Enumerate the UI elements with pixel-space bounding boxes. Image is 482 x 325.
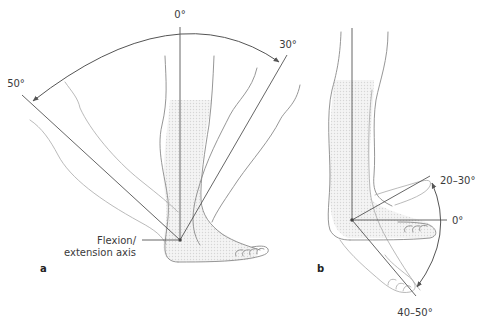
panel-a: 0° 30° 50° Flexion/ extension axis a [7, 9, 300, 274]
leg-plantarflexed-back [30, 120, 166, 244]
axis-point-b [350, 218, 354, 222]
plantarflexion-line [22, 95, 180, 240]
leg-dorsiflexed-front [212, 85, 300, 222]
leg-b-front [374, 32, 392, 206]
panel-b: 20–30° 0° 40–50° b [317, 28, 475, 318]
panel-letter-a: a [40, 263, 47, 274]
range-arc-a [33, 34, 279, 101]
label-0-degree-b: 0° [452, 215, 463, 226]
label-20-30-degree: 20–30° [440, 175, 475, 186]
leg-b-shade [329, 80, 435, 238]
axis-point-a [178, 238, 182, 242]
label-0-degree-a: 0° [174, 9, 185, 20]
foot-b-plantarflexed [340, 240, 415, 293]
label-flexion-axis-line1: Flexion/ [97, 235, 137, 246]
leg-plantarflexed-front [65, 82, 178, 212]
leg-b-inner [369, 90, 420, 290]
label-50-degree: 50° [7, 78, 25, 89]
label-40-50-degree: 40–50° [397, 307, 432, 318]
foot-b-plantar-toes [388, 279, 411, 291]
label-30-degree: 30° [279, 39, 297, 50]
range-of-motion-diagram: 0° 30° 50° Flexion/ extension axis a [0, 0, 482, 325]
label-flexion-axis-line2: extension axis [64, 247, 136, 258]
panel-letter-b: b [317, 263, 324, 274]
